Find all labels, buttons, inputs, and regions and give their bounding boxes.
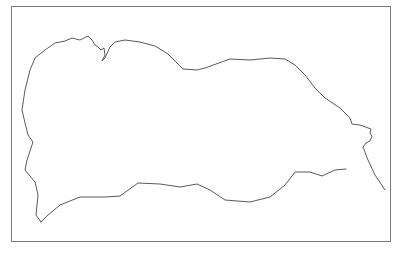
- outline-path-0: [22, 36, 385, 222]
- outline-drawing: [0, 0, 397, 253]
- drawing-frame: [12, 7, 391, 242]
- outline-shape: [22, 36, 385, 222]
- drawing-canvas: [0, 0, 397, 253]
- outline-path-1: [41, 169, 346, 222]
